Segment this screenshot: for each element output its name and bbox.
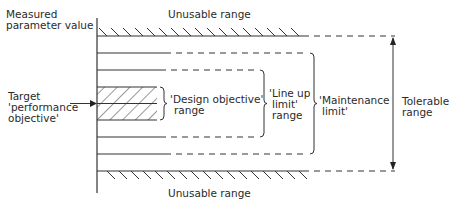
target-label: Target'performanceobjective' [8, 91, 78, 124]
bottom-unusable-label: Unusable range [168, 188, 251, 199]
top-unusable-label: Unusable range [168, 9, 251, 20]
maintenance-brace [310, 53, 317, 154]
axis-label-line2: parameter value [6, 20, 93, 31]
lineup-limit-label: 'Line uplimit'range [269, 88, 310, 121]
design-brace [160, 87, 167, 120]
top-hatch [99, 28, 299, 36]
lineup-label-line3: range [269, 110, 310, 121]
design-objective-label: 'Design objective'range [170, 94, 263, 116]
tolerable-label-line2: range [402, 107, 449, 118]
bottom-hatch [107, 171, 307, 179]
maintenance-limit-label: 'Maintenancelimit' [319, 95, 390, 117]
maintenance-label-line2: limit' [319, 106, 390, 117]
axis-label: Measuredparameter value [6, 9, 93, 31]
target-label-line3: objective' [8, 113, 78, 124]
design-label-line2: range [170, 105, 263, 116]
target-arrow-icon [90, 100, 97, 107]
arrow-up-icon [390, 37, 396, 45]
arrow-down-icon [390, 162, 396, 170]
tolerable-range-label: Tolerablerange [402, 96, 449, 118]
